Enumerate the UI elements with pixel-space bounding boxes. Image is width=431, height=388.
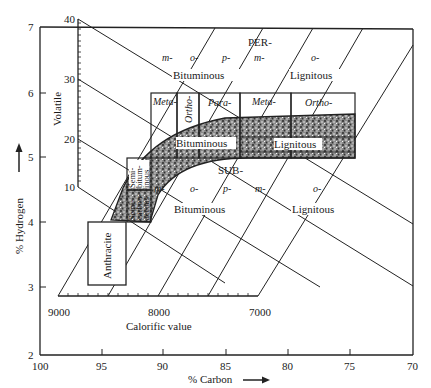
svg-text:o-: o- <box>313 183 321 194</box>
bottom-prefixes: m- o- p- m- o- <box>154 183 321 194</box>
seyler-coal-chart: 100 95 90 85 80 75 70 % Carbon 2 3 4 5 6… <box>0 0 431 388</box>
svg-text:2: 2 <box>28 349 34 361</box>
svg-text:90: 90 <box>157 360 169 372</box>
header-ortho-1: Ortho- <box>183 96 194 123</box>
volatile-axis-label: Volatile <box>51 92 63 126</box>
svg-text:10: 10 <box>64 181 76 193</box>
svg-text:m-: m- <box>154 183 165 194</box>
svg-text:m-: m- <box>162 52 173 63</box>
bituminous-top-label: Bituminous <box>173 69 224 81</box>
svg-text:aceous: aceous <box>141 197 151 220</box>
calorific-tick-labels: 9000 8000 7000 <box>48 306 272 318</box>
svg-text:p-: p- <box>222 183 231 194</box>
anthracite-label: Anthracite <box>101 232 113 279</box>
svg-text:m-: m- <box>255 183 266 194</box>
svg-text:70: 70 <box>407 360 419 372</box>
volatile-tick-labels: 10 20 30 40 <box>64 13 76 193</box>
header-ortho-2: Ortho- <box>305 97 332 108</box>
svg-text:7: 7 <box>28 21 34 33</box>
svg-text:100: 100 <box>32 360 49 372</box>
header-para: Para- <box>207 97 231 108</box>
header-meta-1: Meta- <box>152 96 177 107</box>
lignitous-band-label: Lignitous <box>274 138 316 150</box>
hydrogen-arrow-icon <box>16 143 23 172</box>
svg-text:40: 40 <box>64 13 76 25</box>
bituminous-bottom-label: Bituminous <box>174 203 225 215</box>
svg-text:95: 95 <box>96 360 108 372</box>
svg-text:4: 4 <box>28 216 34 228</box>
lignitous-top-label: Lignitous <box>290 69 332 81</box>
svg-text:o-: o- <box>190 52 198 63</box>
svg-text:inous: inous <box>141 170 151 188</box>
svg-text:20: 20 <box>64 133 76 145</box>
svg-text:7000: 7000 <box>249 306 272 318</box>
svg-text:5: 5 <box>28 151 34 163</box>
svg-text:8000: 8000 <box>148 306 171 318</box>
svg-text:75: 75 <box>344 360 356 372</box>
hydrogen-tick-labels: 2 3 4 5 6 7 <box>28 21 34 361</box>
lignitous-bottom-label: Lignitous <box>292 203 334 215</box>
svg-text:p-: p- <box>221 52 230 63</box>
hydrogen-axis-label: % Hydrogen <box>13 198 25 254</box>
svg-text:o-: o- <box>311 52 319 63</box>
svg-text:9000: 9000 <box>48 306 71 318</box>
carbon-arrow-icon <box>243 377 270 384</box>
carbon-tick-labels: 100 95 90 85 80 75 70 <box>32 360 419 372</box>
per-label: PER- <box>248 36 272 48</box>
svg-text:6: 6 <box>28 87 34 99</box>
svg-text:m-: m- <box>254 52 265 63</box>
volatile-axis <box>78 19 81 187</box>
semi-bituminous-label: Semi- bitum- inous <box>127 160 151 188</box>
svg-text:30: 30 <box>64 73 76 85</box>
svg-text:80: 80 <box>282 360 294 372</box>
carbon-axis-label: % Carbon <box>188 373 233 385</box>
svg-text:85: 85 <box>220 360 232 372</box>
sub-label: SUB- <box>218 164 243 176</box>
bituminous-band-label: Bituminous <box>176 137 227 149</box>
calorific-axis-label: Calorific value <box>126 320 192 332</box>
svg-text:3: 3 <box>28 281 34 293</box>
svg-text:o-: o- <box>190 183 198 194</box>
header-meta-2: Meta- <box>251 96 276 107</box>
